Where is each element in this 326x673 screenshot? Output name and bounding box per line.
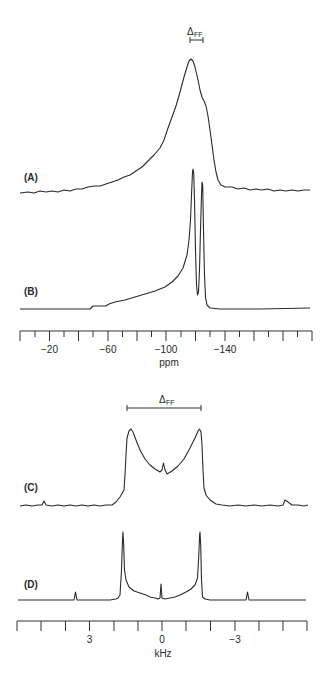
spectrum-d-trace: [18, 532, 306, 600]
khz-tick-label: 3: [87, 634, 93, 645]
panel-label-a: (A): [24, 172, 38, 183]
khz-tick-label: 0: [159, 634, 165, 645]
ppm-tick-label: −20: [41, 344, 58, 355]
panel-label-c: (C): [24, 482, 38, 493]
delta-bracket: [127, 405, 201, 411]
ppm-axis: −20 −60 −100 −140 ppm: [20, 331, 312, 368]
khz-axis-ticks: [17, 621, 307, 631]
delta-ff-annotation-bottom: Δ FF: [127, 394, 201, 411]
nmr-spectra-figure: Δ FF (A) (B) −20 −60 −100 −140 ppm Δ FF …: [0, 0, 326, 673]
delta-subscript: FF: [166, 399, 175, 406]
ppm-axis-ticks: [20, 331, 312, 341]
delta-subscript: FF: [194, 31, 203, 38]
panel-label-b: (B): [24, 286, 38, 297]
khz-axis: 3 0 −3 kHz: [17, 621, 307, 659]
khz-tick-label: −3: [229, 634, 241, 645]
ppm-tick-label: −140: [214, 344, 237, 355]
ppm-axis-title: ppm: [159, 357, 178, 368]
panel-label-d: (D): [24, 579, 38, 590]
ppm-tick-label: −60: [100, 344, 117, 355]
spectrum-a-trace: [20, 59, 310, 193]
delta-ff-annotation-top: Δ FF: [187, 26, 203, 43]
delta-symbol: Δ: [187, 26, 194, 37]
delta-symbol: Δ: [159, 394, 166, 405]
khz-axis-title: kHz: [154, 648, 171, 659]
spectrum-c-trace: [20, 429, 308, 506]
ppm-tick-label: −100: [155, 344, 178, 355]
